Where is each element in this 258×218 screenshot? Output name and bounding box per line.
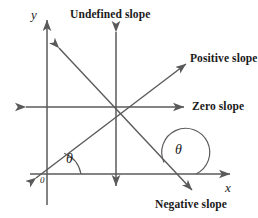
theta-arc-right bbox=[162, 128, 210, 174]
x-axis-label: x bbox=[225, 181, 231, 194]
theta-label-left: θ bbox=[66, 152, 73, 166]
undefined-slope-label: Undefined slope bbox=[70, 9, 150, 21]
slope-diagram-figure: y x 0 Undefined slope Positive slope Zer… bbox=[0, 0, 258, 218]
zero-slope-label: Zero slope bbox=[192, 101, 244, 113]
origin-label: 0 bbox=[40, 176, 45, 185]
theta-label-right: θ bbox=[175, 143, 182, 157]
negative-slope-label: Negative slope bbox=[155, 199, 227, 211]
positive-slope-label: Positive slope bbox=[190, 53, 258, 65]
y-axis-label: y bbox=[31, 8, 37, 21]
